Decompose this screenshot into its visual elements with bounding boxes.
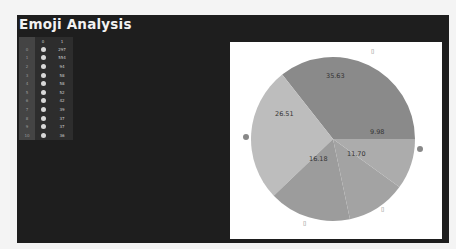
table-row: 837 — [19, 114, 73, 123]
row-index: 6 — [19, 97, 35, 106]
table-row: 642 — [19, 97, 73, 106]
emoji-box-icon — [35, 62, 51, 71]
row-count: 42 — [51, 97, 73, 106]
emoji-face-icon — [35, 114, 51, 123]
row-index: 1 — [19, 54, 35, 63]
table-row: 937 — [19, 122, 73, 131]
header-count: 1 — [51, 37, 73, 45]
row-count: 37 — [51, 122, 73, 131]
row-count: 39 — [51, 105, 73, 114]
table-row: 1036 — [19, 131, 73, 140]
pie-label-0: 35.63 — [326, 72, 345, 80]
page-title: Emoji Analysis — [19, 16, 132, 32]
row-index: 8 — [19, 114, 35, 123]
row-count: 58 — [51, 71, 73, 80]
row-index: 10 — [19, 131, 35, 140]
pie-chart: 35.63 26.51 16.18 11.70 9.98 ▯ ▯ ▯ — [230, 42, 442, 239]
emoji-table: 0 1 029715542943584585526427398379371036 — [19, 37, 73, 140]
pie-label-2: 16.18 — [309, 155, 328, 163]
row-count: 52 — [51, 88, 73, 97]
row-count: 94 — [51, 62, 73, 71]
header-emoji: 0 — [35, 37, 51, 45]
table-row: 358 — [19, 71, 73, 80]
emoji-face-icon — [35, 54, 51, 63]
emoji-face-icon — [35, 122, 51, 131]
emoji-face-icon — [417, 146, 423, 152]
table-row: 0297 — [19, 45, 73, 54]
row-count: 297 — [51, 45, 73, 54]
missing-glyph-icon: ▯ — [371, 47, 374, 54]
row-index: 2 — [19, 62, 35, 71]
table-row: 294 — [19, 62, 73, 71]
table-header: 0 1 — [19, 37, 73, 45]
missing-glyph-icon: ▯ — [381, 205, 384, 212]
table-row: 458 — [19, 79, 73, 88]
header-index — [19, 37, 35, 45]
emoji-face-icon — [243, 134, 249, 140]
row-index: 3 — [19, 71, 35, 80]
pie-label-4: 9.98 — [370, 128, 384, 136]
row-index: 4 — [19, 79, 35, 88]
pie-label-3: 11.70 — [347, 150, 366, 158]
missing-glyph-icon: ▯ — [303, 219, 306, 226]
emoji-face-icon — [35, 79, 51, 88]
row-index: 5 — [19, 88, 35, 97]
row-index: 7 — [19, 105, 35, 114]
table-row: 739 — [19, 105, 73, 114]
row-count: 36 — [51, 131, 73, 140]
emoji-heart-icon — [35, 88, 51, 97]
emoji-face-icon — [35, 105, 51, 114]
row-count: 37 — [51, 114, 73, 123]
row-index: 0 — [19, 45, 35, 54]
table-row: 1554 — [19, 54, 73, 63]
app-window: Emoji Analysis 0 1 029715542943584585526… — [17, 15, 449, 243]
emoji-face-icon — [35, 45, 51, 54]
emoji-face-icon — [35, 97, 51, 106]
row-index: 9 — [19, 122, 35, 131]
emoji-hand-icon — [35, 71, 51, 80]
table-row: 552 — [19, 88, 73, 97]
pie-label-1: 26.51 — [275, 110, 294, 118]
emoji-hand-icon — [35, 131, 51, 140]
row-count: 554 — [51, 54, 73, 63]
row-count: 58 — [51, 79, 73, 88]
